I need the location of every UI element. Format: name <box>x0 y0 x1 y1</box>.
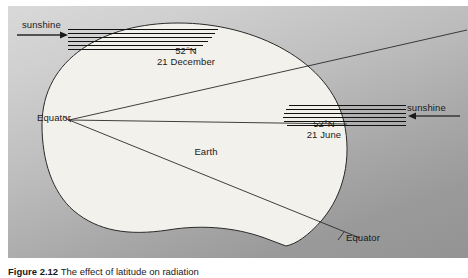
december-point-label: 52°N 21 December <box>147 45 225 67</box>
sunshine-label-right: sunshine <box>407 102 446 113</box>
equator-right-pointer <box>338 232 344 240</box>
june-date-text: 21 June <box>293 129 355 140</box>
figure-caption-text: The effect of latitude on radiation <box>61 266 199 277</box>
june-point-label: 52°N 21 June <box>293 118 355 140</box>
figure-caption: Figure 2.12 The effect of latitude on ra… <box>8 266 460 278</box>
equator-label-left: Equator <box>37 112 71 123</box>
sunshine-arrow-right <box>408 113 460 120</box>
figure-caption-label: Figure 2.12 <box>8 266 58 277</box>
december-latitude-text: 52°N <box>147 45 225 56</box>
equator-label-right: Equator <box>346 232 380 243</box>
earth-sunshine-diagram <box>8 6 468 258</box>
june-latitude-text: 52°N <box>293 118 355 129</box>
december-date-text: 21 December <box>147 56 225 67</box>
figure-image-panel: sunshine sunshine 52°N 21 December 52°N … <box>8 6 468 258</box>
earth-label: Earth <box>184 146 228 157</box>
sunshine-label-left: sunshine <box>22 19 61 30</box>
sunshine-arrow-left <box>17 32 68 39</box>
